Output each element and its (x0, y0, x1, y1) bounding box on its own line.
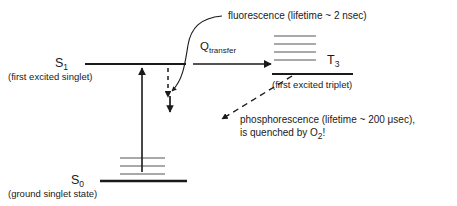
phosphorescence-label-line1: phosphorescence (lifetime ~ 200 μsec), (240, 114, 415, 125)
s1-symbol: S1 (55, 56, 68, 72)
t3-caption: (first excited triplet) (272, 79, 352, 90)
s0-symbol: S0 (71, 173, 84, 189)
jablonski-diagram: S1 (first excited singlet) S0 (ground si… (0, 0, 457, 206)
s0-caption: (ground singlet state) (8, 188, 97, 199)
q-transfer-label: Qtransfer (200, 40, 236, 55)
t3-symbol: T3 (327, 53, 340, 69)
s1-caption: (first excited singlet) (8, 71, 92, 82)
fluorescence-label: fluorescence (lifetime ~ 2 nsec) (228, 10, 367, 21)
phosphorescence-arrow (222, 76, 292, 119)
t3-vibrational-levels (274, 36, 316, 60)
phosphorescence-label-line2: is quenched by O2! (240, 127, 325, 141)
diagram-canvas: S1 (first excited singlet) S0 (ground si… (0, 0, 457, 206)
